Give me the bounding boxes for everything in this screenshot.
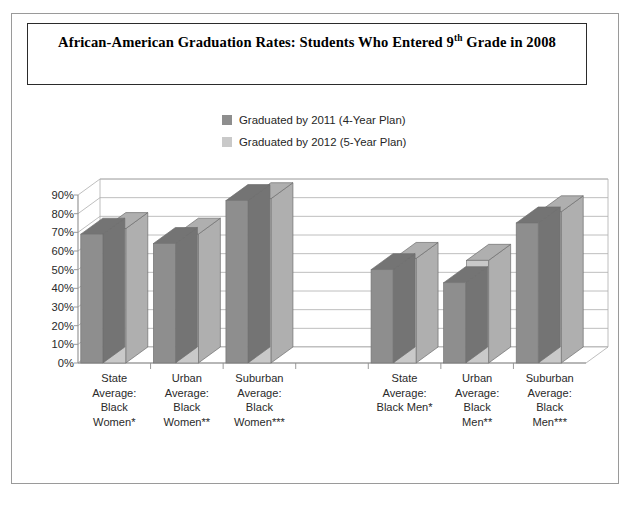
y-axis-label-0: 0% [34, 357, 74, 369]
chart-legend: Graduated by 2011 (4-Year Plan) Graduate… [222, 110, 482, 154]
category-label-line: Black [507, 400, 592, 415]
x-axis-category-label-6: SuburbanAverage:BlackMen*** [507, 371, 592, 429]
legend-item-0[interactable]: Graduated by 2011 (4-Year Plan) [222, 110, 482, 129]
legend-item-1[interactable]: Graduated by 2012 (5-Year Plan) [222, 132, 482, 151]
y-axis-label-10: 10% [34, 338, 74, 350]
chart-title-main: African-American Graduation Rates: Stude… [58, 34, 454, 50]
category-label-line: Suburban [217, 371, 302, 386]
chart-title-box: African-American Graduation Rates: Stude… [27, 23, 587, 85]
legend-swatch-icon-1 [222, 137, 232, 147]
legend-label-0: Graduated by 2011 (4-Year Plan) [239, 114, 406, 126]
y-axis-label-90: 90% [34, 189, 74, 201]
category-label-line: Average: [507, 386, 592, 401]
y-axis-tick-labels: 0%10%20%30%40%50%60%70%80%90% [32, 0, 74, 506]
chart-title-ordinal-suffix: th [454, 33, 463, 43]
y-axis-label-40: 40% [34, 282, 74, 294]
chart-title-tail: Grade in 2008 [463, 34, 556, 50]
category-label-line: Women*** [217, 415, 302, 430]
x-axis-category-label-2: SuburbanAverage:BlackWomen*** [217, 371, 302, 429]
category-label-line: Black [217, 400, 302, 415]
y-axis-label-80: 80% [34, 208, 74, 220]
y-axis-label-30: 30% [34, 301, 74, 313]
y-axis-label-20: 20% [34, 320, 74, 332]
category-label-line: Suburban [507, 371, 592, 386]
y-axis-label-60: 60% [34, 245, 74, 257]
page-title: African-American Graduation Rates: Stude… [28, 34, 586, 51]
category-label-line: Average: [217, 386, 302, 401]
legend-swatch-icon-0 [222, 115, 232, 125]
category-label-line: Men*** [507, 415, 592, 430]
y-axis-label-50: 50% [34, 264, 74, 276]
legend-label-1: Graduated by 2012 (5-Year Plan) [239, 136, 406, 148]
y-axis-label-70: 70% [34, 226, 74, 238]
